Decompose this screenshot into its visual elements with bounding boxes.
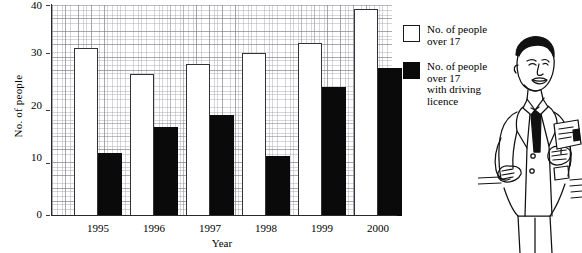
- legend-swatch-black-square-icon: [403, 62, 420, 79]
- plot-area: [52, 5, 392, 216]
- bar-1998-over17: [242, 53, 266, 216]
- bar-1999-licence: [322, 87, 346, 216]
- legend-swatch-white-square-icon: [403, 25, 420, 42]
- y-tick-mark-30: [46, 53, 50, 54]
- y-tick-label-20: 20: [16, 100, 42, 111]
- bar-1996-over17: [130, 74, 154, 216]
- bar-2000-over17: [354, 9, 378, 216]
- x-tick-label-2000: 2000: [352, 222, 404, 234]
- y-axis-line: [51, 4, 52, 216]
- x-tick-label-1995: 1995: [72, 222, 124, 234]
- x-axis-line: [52, 215, 397, 216]
- chart-figure: No. of people 40 30 20 10 0 1995 1996 19…: [0, 0, 582, 253]
- x-tick-label-1998: 1998: [240, 222, 292, 234]
- bar-1998-licence: [266, 156, 290, 216]
- bar-2000-licence: [378, 68, 402, 216]
- y-tick-mark-20: [46, 110, 50, 111]
- bar-1995-over17: [74, 48, 98, 216]
- y-tick-label-40: 40: [16, 0, 42, 11]
- man-in-suit-holding-licence-illustration: [478, 28, 582, 253]
- x-tick-label-1999: 1999: [296, 222, 348, 234]
- y-tick-mark-40: [46, 5, 50, 6]
- bar-1997-licence: [210, 115, 234, 216]
- y-tick-label-30: 30: [16, 47, 42, 58]
- bar-1997-over17: [186, 64, 210, 216]
- x-tick-label-1996: 1996: [128, 222, 180, 234]
- y-tick-label-10: 10: [16, 152, 42, 163]
- x-tick-label-1997: 1997: [184, 222, 236, 234]
- x-axis-label: Year: [182, 237, 262, 249]
- y-tick-label-0: 0: [16, 209, 42, 220]
- bar-1999-over17: [298, 43, 322, 216]
- y-tick-mark-0: [46, 215, 50, 216]
- bar-1995-licence: [98, 153, 122, 216]
- y-tick-mark-10: [46, 163, 50, 164]
- bar-1996-licence: [154, 127, 178, 216]
